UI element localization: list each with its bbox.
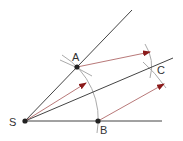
point-b — [95, 118, 100, 123]
bisector-ray — [25, 58, 173, 121]
label-c: C — [157, 64, 165, 76]
label-a: A — [72, 51, 80, 63]
arc-c-upper — [145, 44, 152, 78]
point-s — [22, 118, 27, 123]
label-b: B — [100, 124, 107, 136]
label-s: S — [9, 116, 16, 128]
vector-b — [98, 84, 164, 121]
vector-a — [77, 52, 150, 67]
point-a — [74, 64, 79, 69]
angle-bisector-diagram: S A B C — [0, 0, 183, 141]
